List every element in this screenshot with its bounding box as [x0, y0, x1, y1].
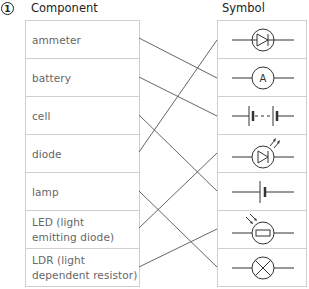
led-symbol-icon: [218, 135, 306, 173]
symbol-row-0[interactable]: [218, 21, 306, 59]
symbol-row-4[interactable]: [218, 173, 306, 211]
match-line-battery: [139, 77, 217, 116]
match-line-lamp: [139, 191, 217, 267]
ammeter-symbol-icon: A: [218, 59, 306, 97]
component-row-cell[interactable]: cell: [26, 97, 139, 135]
component-label: ammeter: [32, 32, 81, 47]
component-label: diode: [32, 146, 62, 161]
symbol-row-3[interactable]: [218, 135, 306, 173]
svg-text:A: A: [260, 73, 267, 84]
component-label-line2: dependent resistor): [32, 269, 137, 281]
match-line-led: [139, 153, 217, 228]
component-row-ldr[interactable]: LDR (light dependent resistor): [26, 249, 139, 286]
symbol-row-2[interactable]: [218, 97, 306, 135]
battery-symbol-icon: [218, 97, 306, 135]
component-label-line2: emitting diode): [32, 231, 114, 243]
symbol-table: A: [217, 20, 307, 287]
lamp-symbol-icon: [218, 249, 306, 286]
component-row-battery[interactable]: battery: [26, 59, 139, 97]
symbol-row-6[interactable]: [218, 249, 306, 286]
ldr-symbol-icon: [218, 211, 306, 249]
symbol-row-1[interactable]: A: [218, 59, 306, 97]
match-line-ldr: [139, 229, 217, 267]
component-row-diode[interactable]: diode: [26, 135, 139, 173]
component-row-led[interactable]: LED (light emitting diode): [26, 211, 139, 249]
symbol-row-5[interactable]: [218, 211, 306, 249]
component-label: battery: [32, 70, 71, 85]
component-table: ammeter battery cell diode lamp LED (lig…: [25, 20, 140, 287]
component-column-header: Component: [31, 1, 98, 15]
match-line-cell: [139, 115, 217, 191]
component-label: LED (light emitting diode): [32, 215, 114, 245]
component-label: cell: [32, 108, 50, 123]
component-label: lamp: [32, 184, 59, 199]
match-line-ammeter: [139, 38, 217, 78]
cell-symbol-icon: [218, 173, 306, 211]
question-number-badge: 1: [1, 2, 14, 15]
component-label-line1: LDR (light: [32, 254, 85, 266]
component-row-lamp[interactable]: lamp: [26, 173, 139, 211]
component-label-line1: LED (light: [32, 216, 84, 228]
component-label: LDR (light dependent resistor): [32, 253, 137, 283]
match-line-diode: [139, 40, 217, 152]
symbol-column-header: Symbol: [222, 1, 265, 15]
diode-symbol-icon: [218, 21, 306, 59]
component-row-ammeter[interactable]: ammeter: [26, 21, 139, 59]
